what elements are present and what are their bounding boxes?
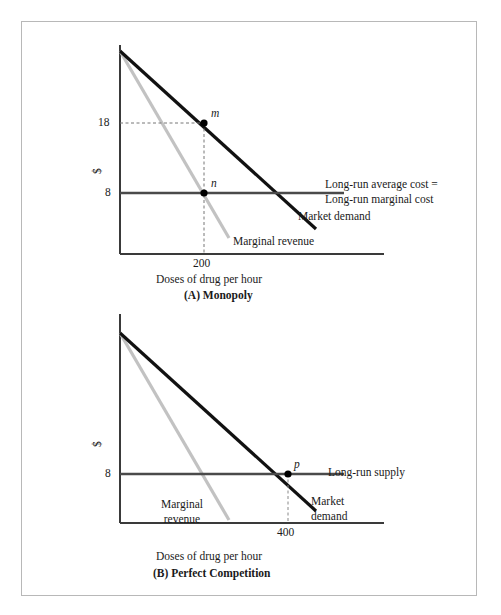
panel-perfect-competition: $ 8 p Long-run supply Market demand Marg…	[22, 22, 476, 595]
panel-b-y-tick-8: 8	[105, 467, 111, 480]
panel-b-x-axis-label: Doses of drug per hour	[156, 550, 262, 563]
panel-b-marginal-revenue-curve	[120, 333, 229, 520]
panel-b-x-tick-400: 400	[277, 526, 294, 539]
panel-b-caption: (B) Perfect Competition	[153, 567, 271, 580]
panel-b-market-demand-label-line1: Market	[311, 494, 347, 509]
panel-b-graphics	[22, 22, 478, 597]
panel-b-point-p	[284, 470, 291, 477]
panel-b-market-demand-curve	[120, 333, 316, 511]
figure-frame: $ 18 8 m n Long-run average cost = Long-…	[21, 21, 477, 596]
panel-b-point-label-p: p	[294, 458, 300, 471]
panel-b-long-run-supply-label: Long-run supply	[328, 466, 405, 479]
panel-b-marginal-revenue-label-line2: revenue	[161, 512, 203, 527]
panel-b-market-demand-label: Market demand	[311, 494, 347, 524]
panel-b-market-demand-label-line2: demand	[311, 509, 347, 524]
panel-b-marginal-revenue-label: Marginal revenue	[161, 497, 203, 527]
panel-b-marginal-revenue-label-line1: Marginal	[161, 497, 203, 512]
panel-b-y-axis-label: $	[91, 441, 104, 447]
